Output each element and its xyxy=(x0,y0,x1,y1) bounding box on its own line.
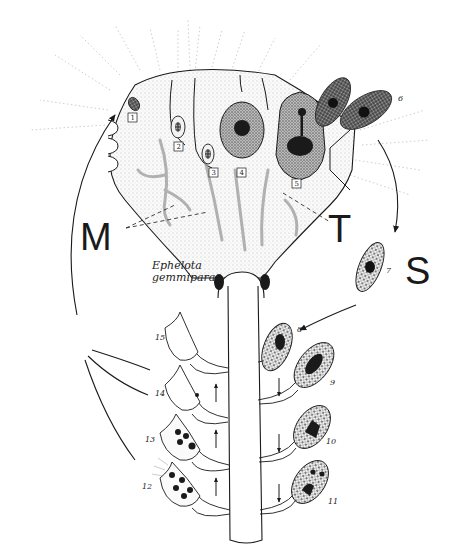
svg-text:4: 4 xyxy=(240,169,245,177)
ephelota-head xyxy=(110,70,355,278)
stage-10-bud: 10 xyxy=(286,399,338,456)
stage-12-cup: 12 xyxy=(142,458,200,506)
stage-9-bud: 9 xyxy=(286,335,342,394)
stage-15-empty-cup: 15 xyxy=(155,312,198,360)
stage-14-cup: 14 xyxy=(155,365,200,410)
species-epithet: gemmipara xyxy=(152,272,215,284)
release-arrow xyxy=(378,140,398,232)
stage-13-cup: 13 xyxy=(145,414,200,460)
svg-text:12: 12 xyxy=(142,482,152,491)
svg-text:14: 14 xyxy=(155,389,165,398)
svg-text:10: 10 xyxy=(326,437,336,446)
svg-text:13: 13 xyxy=(145,435,155,444)
ephelota-life-cycle-illustration: 1 2 3 4 5 6 xyxy=(0,0,452,549)
stage-8-bud: 8 xyxy=(256,319,303,375)
label-M: M xyxy=(80,218,112,256)
svg-text:11: 11 xyxy=(328,497,338,506)
stage-7-swarmer: 7 xyxy=(350,239,392,295)
label-S: S xyxy=(405,252,430,290)
svg-text:3: 3 xyxy=(212,169,216,177)
main-stalk xyxy=(228,286,262,543)
settle-arrow xyxy=(300,305,356,330)
scalloped-edge xyxy=(108,120,118,172)
svg-text:7: 7 xyxy=(386,266,392,275)
stage-11-bud: 11 xyxy=(284,454,338,511)
svg-text:5: 5 xyxy=(295,180,299,188)
species-label: Ephelota gemmipara xyxy=(152,260,215,284)
svg-text:15: 15 xyxy=(155,333,165,342)
svg-text:2: 2 xyxy=(177,143,181,151)
svg-text:1: 1 xyxy=(131,114,135,122)
label-T: T xyxy=(328,210,351,248)
svg-text:6: 6 xyxy=(398,94,403,103)
svg-text:9: 9 xyxy=(330,378,335,387)
